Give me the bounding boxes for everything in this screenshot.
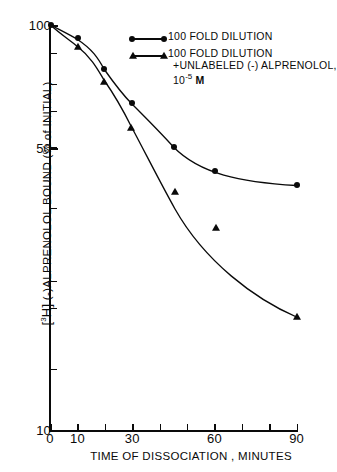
data-point-circle <box>101 66 107 72</box>
data-point-triangle <box>171 188 179 195</box>
legend-key-triangle <box>128 50 168 61</box>
data-point-circle <box>171 144 177 150</box>
x-tick-label-60: 60 <box>204 432 224 445</box>
legend-label-2-line1: 100 FOLD DILUTION <box>168 47 273 59</box>
legend: 100 FOLD DILUTION 100 FOLD DILUTION +UNL… <box>128 31 324 90</box>
legend-label-2-line3-unit: M <box>192 74 204 86</box>
legend-label-1: 100 FOLD DILUTION <box>168 31 273 43</box>
data-point-triangle <box>100 78 108 85</box>
x-tick-20 <box>105 424 106 430</box>
circle-marker-icon <box>161 36 167 42</box>
data-point-triangle <box>127 124 135 131</box>
y-axis-title-rest: (-)ALPRENOLOL BOUND (% of INITIAL) <box>41 81 53 303</box>
data-point-triangle <box>293 313 301 320</box>
y-axis-title: [3H] (-)ALPRENOLOL BOUND (% of INITIAL) <box>39 54 54 354</box>
triangle-marker-icon <box>129 51 137 58</box>
y-axis-title-isotope: 3 <box>39 317 48 321</box>
x-tick-label-0: 0 <box>40 432 60 445</box>
legend-label-2-line2: +UNLABELED (-) ALPRENOLOL, <box>168 59 337 71</box>
data-point-triangle <box>74 43 82 50</box>
data-point-circle <box>212 168 218 174</box>
x-tick-70 <box>242 424 243 430</box>
x-tick-label-10: 10 <box>67 432 87 445</box>
legend-line-segment <box>132 38 164 40</box>
legend-entry-with-unlabeled-alprenolol: 100 FOLD DILUTION +UNLABELED (-) ALPRENO… <box>128 48 324 86</box>
legend-key-circle <box>128 33 168 44</box>
data-point-circle <box>48 22 54 28</box>
x-tick-label-90: 90 <box>287 432 307 445</box>
data-point-circle <box>129 100 135 106</box>
x-tick-label-30: 30 <box>122 432 142 445</box>
data-point-circle <box>75 35 81 41</box>
y-axis-title-element: H] <box>39 304 54 318</box>
legend-label-2-block: 100 FOLD DILUTION +UNLABELED (-) ALPRENO… <box>168 48 337 86</box>
y-axis-title-bracket-open: [ <box>39 322 54 326</box>
data-point-triangle <box>212 224 220 231</box>
circle-marker-icon <box>129 36 135 42</box>
data-point-circle <box>294 182 300 188</box>
x-axis-title: TIME OF DISSOCIATION , MINUTES <box>66 450 316 462</box>
x-tick-40 <box>160 424 161 430</box>
legend-entry-100-fold-dilution: 100 FOLD DILUTION <box>128 31 324 44</box>
x-tick-50 <box>187 424 188 430</box>
y-tick-15 <box>51 369 57 370</box>
x-tick-80 <box>269 424 270 430</box>
legend-label-2-line3-base: 10 <box>168 74 185 86</box>
triangle-marker-icon <box>160 51 168 58</box>
